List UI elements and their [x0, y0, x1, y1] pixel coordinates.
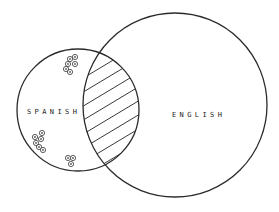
marker-cluster-bottom-left — [32, 130, 45, 152]
marker-cluster-top — [63, 54, 77, 74]
english-circle — [83, 13, 267, 197]
marker-cluster-bottom — [65, 155, 75, 166]
spanish-label: SPANISH — [27, 108, 80, 116]
venn-diagram: SPANISH ENGLISH — [0, 0, 279, 212]
english-label: ENGLISH — [172, 111, 225, 119]
